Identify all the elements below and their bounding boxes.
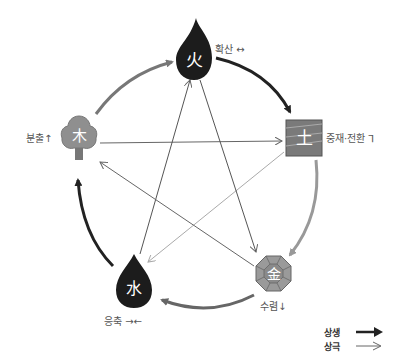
wood-label: 분출↑ <box>26 130 52 145</box>
metal-label: 수렴↓ <box>260 298 286 313</box>
legend-overcoming-label: 상극 <box>324 340 340 353</box>
arrow-water-to-wood <box>78 180 113 266</box>
five-elements-diagram: 火 土 金 水 木 <box>0 0 410 362</box>
arrow-wood-to-fire <box>96 62 172 114</box>
overcoming-arrows <box>100 80 284 266</box>
svg-text:火: 火 <box>186 50 203 70</box>
svg-text:土: 土 <box>296 128 313 148</box>
fire-node: 火 <box>176 18 212 80</box>
legend-arrows <box>356 327 383 350</box>
arrow-fire-to-metal <box>200 80 256 252</box>
wood-node: 木 <box>61 116 97 160</box>
legend-overcoming: 상극 <box>324 340 340 353</box>
arrow-fire-to-earth <box>216 58 290 112</box>
arrow-wood-to-earth <box>100 141 282 143</box>
svg-text:金: 金 <box>267 266 281 282</box>
metal-node: 金 <box>256 256 291 291</box>
arrow-earth-to-water <box>148 152 284 262</box>
water-label: 응축 →← <box>104 313 142 328</box>
arrow-water-to-fire <box>140 80 190 254</box>
flame-icon <box>176 18 212 80</box>
arrow-earth-to-metal <box>290 160 317 255</box>
earth-node: 土 <box>286 120 322 156</box>
svg-text:水: 水 <box>126 279 142 298</box>
arrow-metal-to-water <box>162 295 254 308</box>
legend-generating-label: 상생 <box>324 326 340 339</box>
fire-label: 확산 ↔ <box>215 41 245 56</box>
water-node: 水 <box>116 254 152 308</box>
legend-generating: 상생 <box>324 326 340 339</box>
earth-label: 중재·전환 ⅂ <box>326 130 374 145</box>
arrow-metal-to-wood <box>100 162 254 266</box>
svg-text:木: 木 <box>72 127 87 145</box>
